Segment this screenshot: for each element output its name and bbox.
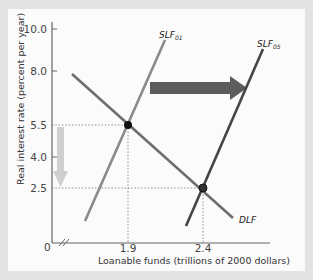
dlf-label: DLF [239,215,257,225]
x-tick-label-2-4: 2.4 [195,242,212,254]
y-tick-label-2-5: 2.5 [30,182,47,194]
y-tick-label-4: 4.0 [30,151,47,163]
x-tick-label-1-9: 1.9 [120,242,137,254]
equilibrium-point-2005 [199,184,207,192]
guide-lines [52,125,203,243]
origin-label: 0 [44,241,51,253]
equilibrium-point-2001 [124,121,132,129]
supply-shift-arrow [150,76,247,100]
loanable-funds-chart: 10.0 8.0 5.5 4.0 2.5 0 1.9 2.4 Real inte… [0,0,313,280]
y-axis-title: Real interest rate (percent per year) [15,13,26,185]
slf05-curve [186,49,263,226]
slf01-curve [85,40,165,221]
slf01-label: SLF01 [159,30,183,41]
x-axis-title: Loanable funds (trillions of 2000 dollar… [98,255,290,266]
y-tick-label-10: 10.0 [24,23,47,35]
slf05-label: SLF05 [257,39,281,50]
y-tick-label-8: 8.0 [30,65,47,77]
y-tick-label-5-5: 5.5 [30,119,47,131]
